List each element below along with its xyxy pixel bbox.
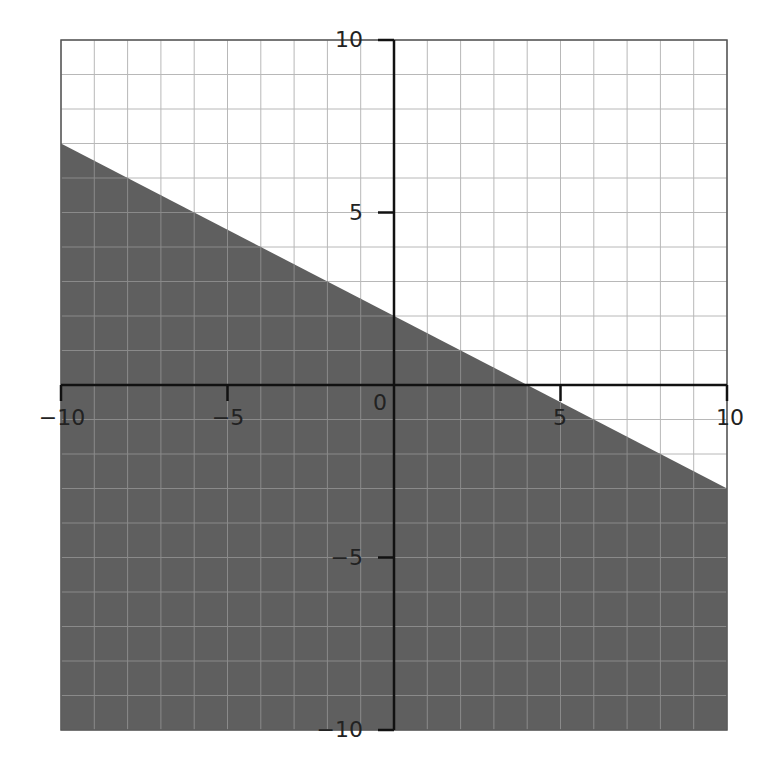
y-tick-label-5: 5 (349, 200, 363, 225)
x-tick-label-neg10: −10 (39, 405, 85, 430)
x-tick-label-10: 10 (716, 405, 744, 430)
x-tick-label-neg5: −5 (212, 405, 244, 430)
y-tick-label-neg5: −5 (331, 545, 363, 570)
y-tick-label-neg10: −10 (317, 717, 363, 742)
inequality-graph: −10 −5 0 5 10 10 5 −5 −10 (0, 0, 765, 777)
x-tick-label-5: 5 (553, 405, 567, 430)
y-tick-label-10: 10 (335, 27, 363, 52)
origin-label: 0 (373, 390, 387, 415)
